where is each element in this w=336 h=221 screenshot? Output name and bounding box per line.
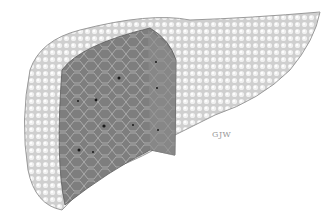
liver-illustration: GJW bbox=[0, 0, 336, 221]
artist-signature: GJW bbox=[212, 130, 231, 139]
liver-drawing bbox=[0, 0, 336, 221]
